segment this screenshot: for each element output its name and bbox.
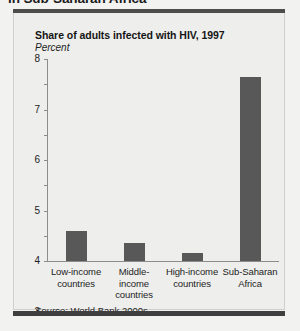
x-tick-label-line: countries (47, 278, 105, 290)
x-tick-label: Low-incomecountries (47, 266, 105, 289)
chart-subtitle-unit: Percent (35, 42, 69, 53)
x-tick-label-line: countries (163, 278, 221, 290)
x-tick-label-line: High-income (163, 266, 221, 278)
chart-title: Share of adults infected with HIV, 1997 (35, 29, 225, 41)
chart-panel: Share of adults infected with HIV, 1997 … (13, 13, 285, 310)
y-tick-label: 5 (34, 206, 40, 216)
x-tick-label-line: Africa (221, 278, 279, 290)
y-tick-label: 4 (34, 256, 40, 266)
x-tick-label: Sub-SaharanAfrica (221, 266, 279, 289)
bar (124, 243, 145, 261)
y-tick-mark: 6 (44, 110, 48, 111)
y-tick-mark: 5 (44, 135, 48, 136)
x-tick-label-line: Sub-Saharan (221, 266, 279, 278)
bar (66, 231, 87, 261)
y-tick-label: 8 (34, 54, 40, 64)
x-tick-label: High-incomecountries (163, 266, 221, 289)
x-tick-label: Middle-incomecountries (105, 266, 163, 301)
y-tick-mark: 8 (44, 59, 48, 60)
x-tick-label-line: Low-income (47, 266, 105, 278)
bottom-divider-rule (13, 311, 285, 316)
x-tick-label-line: countries (105, 289, 163, 301)
bar (182, 253, 203, 261)
x-axis-line (47, 261, 279, 262)
y-tick-label: 6 (34, 155, 40, 165)
y-tick-mark: 2 (44, 211, 48, 212)
bar (240, 77, 261, 261)
y-tick-mark: 4 (44, 160, 48, 161)
plot-area: 012345678 (47, 59, 287, 262)
y-tick-mark: 7 (44, 84, 48, 85)
x-tick-label-line: Middle-income (105, 266, 163, 289)
y-tick-mark: 3 (44, 185, 48, 186)
cut-off-heading: in Sub-Saharan Africa (8, 0, 258, 7)
y-tick-mark: 1 (44, 236, 48, 237)
y-tick-mark: 0 (44, 261, 48, 262)
y-tick-label: 7 (34, 105, 40, 115)
